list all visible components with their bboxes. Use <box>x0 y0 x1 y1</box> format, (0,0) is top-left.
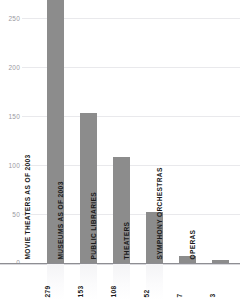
category-label-movie-theaters: MOVIE THEATERS AS OF 2003 <box>25 155 32 260</box>
category-label-operas: OPERAS <box>190 230 197 260</box>
value-labels-layer: 279 153 108 52 7 3 <box>0 264 240 300</box>
value-label-movie-theaters: 279 <box>45 286 52 298</box>
value-label-museums: 153 <box>78 286 85 298</box>
category-label-public-libraries: PUBLIC LIBRARIES <box>91 192 98 260</box>
category-label-symphony-orchestras: SYMPHONY ORCHESTRAS <box>157 168 164 260</box>
bar-chart: 250 200 150 100 50 0 MOVIE THEATERS AS O… <box>0 0 240 300</box>
category-label-museums: MUSEUMS AS OF 2003 <box>58 182 65 260</box>
value-label-public-libraries: 108 <box>111 286 118 298</box>
value-label-theaters: 52 <box>144 290 151 298</box>
value-label-operas: 3 <box>210 294 217 298</box>
value-label-symphony-orchestras: 7 <box>177 294 184 298</box>
category-labels-layer: MOVIE THEATERS AS OF 2003 MUSEUMS AS OF … <box>0 0 240 263</box>
category-label-theaters: THEATERS <box>124 222 131 260</box>
